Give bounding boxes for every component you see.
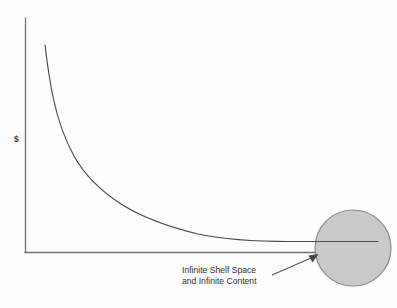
annotation-leader-line (272, 257, 315, 276)
annotation-text-line-2: and Infinite Content (182, 276, 257, 286)
annotation-text-line-1: Infinite Shelf Space (182, 265, 256, 275)
chart-canvas: $ Infinite Shelf Space and Infinite Cont… (0, 0, 397, 308)
long-tail-curve (45, 45, 378, 242)
long-tail-chart: $ Infinite Shelf Space and Infinite Cont… (0, 0, 397, 308)
y-axis-label: $ (14, 134, 19, 144)
tail-highlight-circle (315, 210, 391, 286)
